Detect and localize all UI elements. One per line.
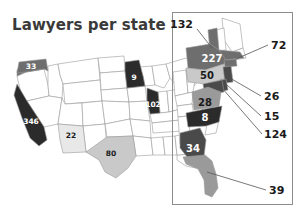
state-louisiana	[133, 136, 153, 156]
inset-label-newyork: 227	[202, 53, 223, 64]
inset-state-ohio	[173, 70, 188, 96]
state-label-california: 346	[23, 117, 39, 126]
state-nebraska	[101, 88, 129, 102]
state-south-dakota	[100, 71, 127, 90]
state-arkansas	[130, 119, 151, 138]
callout-label-florida: 39	[269, 184, 284, 197]
state-label-texas: 80	[106, 149, 116, 158]
state-label-minnesota: 9	[131, 73, 136, 82]
state-label-arizona: 22	[66, 131, 76, 140]
inset-label-georgia: 34	[186, 143, 200, 154]
state-montana	[58, 58, 100, 84]
inset-panel-group: 132 72 26 15 124 39 227 50 28 8 34	[170, 13, 292, 205]
state-colorado	[82, 101, 105, 126]
leader-line-delaware	[226, 84, 261, 116]
callout-label-vermont: 132	[170, 18, 193, 31]
state-alabama	[163, 136, 177, 155]
callout-label-maryland: 124	[264, 128, 287, 141]
state-wyoming	[63, 80, 102, 104]
state-label-illinois: 102	[145, 100, 161, 109]
leader-line-newjersey	[230, 78, 261, 96]
state-north-dakota	[98, 56, 125, 73]
state-mississippi	[151, 137, 165, 155]
callout-label-massachusetts: 72	[271, 39, 286, 52]
us-map-svg: 33 346 22 80 9 102	[0, 0, 303, 221]
inset-label-northcarolina: 8	[202, 112, 209, 123]
callout-label-delaware: 15	[264, 110, 279, 123]
state-label-washington: 33	[26, 62, 36, 71]
inset-label-virginia: 28	[198, 97, 212, 108]
callout-label-newjersey: 26	[264, 90, 280, 103]
state-iowa	[127, 86, 147, 102]
inset-label-pennsylvania: 50	[200, 70, 214, 81]
figure-container: Lawyers per state	[0, 0, 303, 221]
inset-state-florida	[183, 155, 218, 197]
